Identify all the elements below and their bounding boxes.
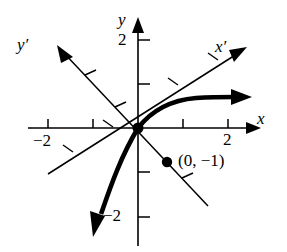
y-axis-tick-label-neg2: −2 <box>103 207 121 224</box>
x-axis-tick-label-neg2: −2 <box>33 132 51 149</box>
y-prime-tick-pos2 <box>85 70 96 75</box>
y-axis-label: y <box>118 11 126 28</box>
y-axis-tick-label-2: 2 <box>118 31 127 48</box>
y-axis-arrowhead <box>132 17 144 33</box>
y-prime-tick-pos1 <box>115 102 126 107</box>
coordinate-plot-svg <box>0 0 287 252</box>
point-0-neg1-marker <box>162 157 172 167</box>
origin-point-marker <box>133 123 144 134</box>
x-axis-tick-label-2: 2 <box>223 131 232 148</box>
y-prime-tick-neg2 <box>182 173 193 178</box>
x-prime-tick-pos1 <box>168 78 178 85</box>
parabola-right-arrowhead <box>231 89 252 105</box>
x-axis-label: x <box>257 110 265 127</box>
x-prime-tick-neg2 <box>63 145 73 152</box>
graph-figure: y x y′ x′ 2 −2 −2 2 (0, −1) <box>0 0 287 252</box>
x-prime-axis-arrowhead <box>229 47 247 62</box>
x-prime-tick-neg1 <box>103 120 113 127</box>
point-coordinate-label: (0, −1) <box>178 152 224 169</box>
y-prime-axis <box>57 45 208 206</box>
x-prime-axis-label: x′ <box>215 38 226 55</box>
y-prime-axis-label: y′ <box>17 36 28 53</box>
